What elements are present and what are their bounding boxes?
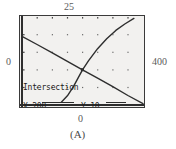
axis-label-left: 0 (6, 57, 11, 67)
y-axis (21, 16, 23, 107)
screen-inner: Intersection X=200 Y=10 (20, 16, 144, 107)
calculator-figure: 25 0 400 0 Intersection X=200 Y=10 (A) (0, 0, 176, 149)
grid-dot-group (23, 17, 129, 88)
readout-y-underline (106, 102, 126, 103)
calculator-screen: Intersection X=200 Y=10 (19, 15, 145, 108)
intersection-cursor (81, 68, 84, 71)
readout-y-value: Y=10 (81, 103, 99, 107)
readout-x-underline (42, 102, 74, 103)
graph-plot (20, 16, 144, 107)
axis-label-bottom: 0 (78, 114, 83, 124)
readout-title: Intersection (23, 84, 78, 92)
readout-x-value: X=200 (23, 103, 46, 107)
axis-label-top: 25 (64, 2, 74, 12)
figure-caption: (A) (70, 129, 85, 140)
axis-label-right: 400 (152, 57, 167, 67)
